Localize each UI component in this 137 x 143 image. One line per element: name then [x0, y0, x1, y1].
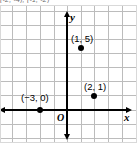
data-point-label: (2, 1): [84, 82, 106, 92]
data-point: [37, 107, 43, 113]
grid-line-horizontal: [0, 81, 137, 82]
y-axis-line: [66, 17, 68, 135]
data-point-label: (−3, 0): [21, 93, 49, 103]
x-axis-line: [4, 109, 126, 111]
data-point: [91, 93, 97, 99]
top-caption-text: (-2, -4), (-1, -2): [0, 0, 137, 3]
origin-label: O: [57, 113, 64, 123]
x-axis-label: x: [124, 112, 130, 123]
coordinate-plane-figure: (-2, -4), (-1, -2) y x O: [0, 0, 137, 143]
data-point-label: (1, 5): [71, 34, 93, 44]
grid-line-horizontal: [0, 39, 137, 40]
grid-line-horizontal: [0, 67, 137, 68]
x-axis-arrow-left-icon: [0, 107, 5, 113]
y-axis-arrow-down-icon: [64, 134, 70, 140]
y-axis-label: y: [70, 12, 75, 23]
y-axis-arrow-up-icon: [64, 11, 70, 17]
data-point: [78, 45, 84, 51]
grid-line-horizontal: [0, 25, 137, 26]
graph-plate: y x O (1, 5) (2, 1) (−3, 0): [0, 5, 137, 143]
grid-line-horizontal: [0, 53, 137, 54]
grid-line-horizontal: [0, 124, 137, 125]
